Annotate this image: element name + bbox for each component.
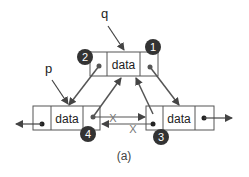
pointer-p-label: p (45, 61, 52, 76)
link-2-arrow (69, 66, 99, 105)
step-badge-4: 4 (80, 126, 96, 142)
svg-text:1: 1 (150, 41, 156, 53)
node-left-data: data (55, 112, 79, 126)
node-right-data: data (167, 112, 191, 126)
svg-text:4: 4 (85, 128, 91, 140)
pointer-p-arrow (52, 80, 68, 104)
link-3-arrow (136, 78, 153, 114)
link-4-arrow (93, 78, 121, 117)
removed-mark-2: X (129, 123, 137, 135)
step-badge-1: 1 (145, 39, 161, 55)
figure-caption: (a) (117, 149, 132, 163)
step-badge-2: 2 (77, 49, 93, 65)
svg-text:2: 2 (82, 51, 88, 63)
node-top-data: data (112, 58, 136, 72)
step-badge-3: 3 (153, 129, 169, 145)
doubly-linked-list-insert-diagram: q p data data data X X (0, 0, 249, 177)
pointer-q-label: q (101, 6, 108, 21)
pointer-q-arrow (108, 26, 124, 50)
link-1-arrow (150, 67, 179, 105)
removed-mark-1: X (109, 112, 117, 124)
svg-text:3: 3 (158, 131, 164, 143)
right-prev-dot (151, 122, 156, 127)
